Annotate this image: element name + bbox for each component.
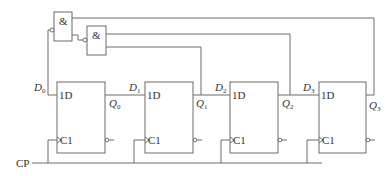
d2-label: D2 [214,81,227,95]
q0-label: Q0 [109,97,121,111]
q1-label: Q1 [196,97,208,111]
ff2-clk-pin-label: C1 [233,134,246,146]
ff3-clk-pin-label: C1 [322,134,335,146]
ff3-d-pin-label: 1D [321,89,335,101]
and-gate-1-symbol: & [59,15,68,27]
d0-label: D0 [33,81,46,95]
circuit-diagram: & & 1D C1 1D C1 1 [0,0,391,176]
clock-label: CP [16,157,29,169]
q3-label: Q3 [369,99,381,113]
ff2-d-pin-label: 1D [232,89,246,101]
and-gate-2-symbol: & [92,29,101,41]
and-gate-1: & [50,12,72,41]
ff0-d-pin-label: 1D [59,89,73,101]
ff1-clk-pin-label: C1 [148,134,161,146]
and-gate-2: & [83,26,106,55]
ff0-clk-pin-label: C1 [60,134,73,146]
d3-label: D3 [302,81,315,95]
d1-label: D1 [128,81,141,95]
q2-label: Q2 [282,97,294,111]
ff1-d-pin-label: 1D [147,89,161,101]
gate1-to-gate2-wire [72,35,83,40]
